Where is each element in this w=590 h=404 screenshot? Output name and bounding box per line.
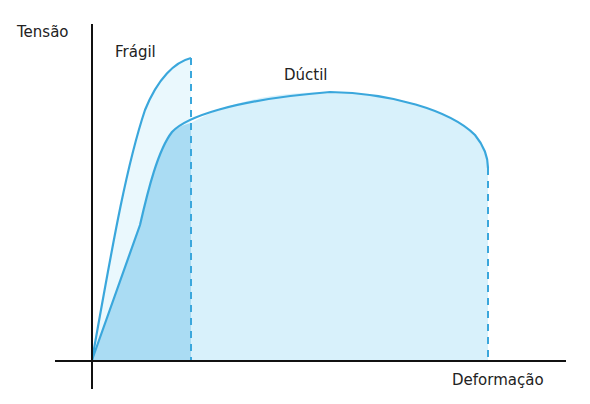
ductil-label: Dúctil bbox=[284, 66, 328, 84]
x-axis-label: Deformação bbox=[452, 371, 544, 389]
stress-strain-diagram bbox=[0, 0, 590, 404]
y-axis-label: Tensão bbox=[17, 23, 69, 41]
ductil-area bbox=[191, 92, 488, 360]
fragil-label: Frágil bbox=[115, 43, 156, 61]
